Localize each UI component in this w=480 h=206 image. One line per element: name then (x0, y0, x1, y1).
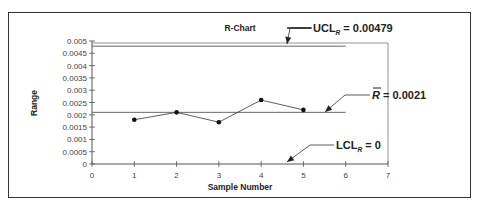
lcl-leader-arrowhead (287, 155, 294, 162)
x-axis-label: Sample Number (208, 182, 273, 192)
y-tick-label: 0.0025 (63, 99, 88, 108)
lcl-leader (287, 145, 334, 162)
x-tick-label: 3 (217, 171, 222, 180)
rbar-leader-arrowhead (325, 105, 332, 112)
ucl-leader (287, 28, 311, 44)
y-tick-label: 0.0015 (63, 123, 88, 132)
y-tick-label: 0.0005 (63, 148, 88, 157)
ucl-annotation: UCLR = 0.00479 (287, 22, 393, 36)
svg-text:LCLR = 0: LCLR = 0 (336, 139, 381, 153)
y-tick-label: 0.0045 (63, 49, 88, 58)
y-tick-label: 0.001 (67, 135, 88, 144)
data-point (174, 110, 179, 115)
lcl-annotation: LCLR = 0 (336, 139, 381, 153)
rbar-label: R (372, 89, 380, 101)
y-tick-label: 0 (83, 160, 88, 169)
x-tick-label: 0 (90, 171, 95, 180)
lcl-label: LCL (336, 139, 358, 151)
svg-text:UCLR = 0.00479: UCLR = 0.00479 (313, 22, 393, 36)
y-tick-label: 0.002 (67, 111, 88, 120)
r-chart: 00.00050.0010.00150.0020.00250.0030.0035… (0, 0, 480, 206)
x-tick-label: 7 (386, 171, 391, 180)
y-tick-label: 0.004 (67, 62, 88, 71)
x-tick-label: 1 (132, 171, 137, 180)
y-tick-label: 0.005 (67, 37, 88, 46)
data-point (132, 117, 137, 122)
x-tick-label: 5 (301, 171, 306, 180)
y-axis-label: Range (29, 90, 39, 116)
ucl-label: UCL (313, 22, 336, 34)
data-point (217, 120, 222, 125)
y-tick-label: 0.003 (67, 86, 88, 95)
x-tick-label: 6 (343, 171, 348, 180)
svg-text:R = 0.0021: R = 0.0021 (372, 89, 426, 101)
data-point (301, 108, 306, 113)
y-tick-label: 0.0035 (63, 74, 88, 83)
x-tick-label: 4 (259, 171, 264, 180)
data-line (134, 100, 303, 122)
x-tick-label: 2 (174, 171, 179, 180)
chart-title: R-Chart (224, 23, 255, 33)
rbar-annotation: R = 0.0021 (372, 88, 426, 101)
data-point (259, 98, 264, 103)
